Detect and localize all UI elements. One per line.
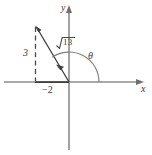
angle-theta-label: θ (88, 51, 93, 61)
y-axis-label: y (61, 3, 65, 13)
x-axis-label: x (141, 84, 145, 94)
trigonometry-angle-diagram: y x θ 3 −2 13 (0, 0, 152, 155)
diagram-canvas (0, 0, 152, 155)
hypotenuse-radicand-label: 13 (63, 38, 73, 47)
opposite-side-label: 3 (23, 48, 28, 58)
ray-direction-arrowhead (56, 65, 64, 71)
adjacent-side-label: −2 (42, 85, 53, 95)
x-axis (4, 79, 144, 85)
y-axis-arrowhead (66, 5, 72, 13)
